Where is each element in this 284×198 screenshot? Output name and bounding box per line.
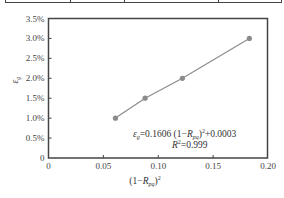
- y-tick-label: 0.5%: [26, 133, 45, 143]
- y-tick-label: 2.5%: [26, 53, 45, 63]
- data-point: [180, 76, 185, 81]
- y-tick-label: 1.5%: [26, 93, 45, 103]
- x-tick-label: 0.10: [150, 161, 166, 171]
- data-point: [247, 36, 252, 41]
- r-squared-label: R2=0.999: [171, 139, 208, 150]
- x-tick-label: 0: [46, 161, 51, 171]
- x-tick-label: 0.05: [96, 161, 112, 171]
- y-tick-label: 0: [40, 153, 45, 163]
- y-tick-label: 1.0%: [26, 113, 45, 123]
- x-axis-label: (1−Rpq)2: [129, 175, 160, 187]
- data-point: [113, 116, 118, 121]
- data-point: [142, 96, 147, 101]
- regression-equation: εg=0.1606 (1−Rpq)2+0.0003: [133, 128, 237, 140]
- data-points: [113, 36, 252, 121]
- x-tick-label: 0.15: [205, 161, 221, 171]
- x-axis-tick-labels: 00.050.100.150.20: [46, 161, 276, 171]
- y-tick-label: 2.0%: [26, 73, 45, 83]
- x-tick-label: 0.20: [260, 161, 276, 171]
- y-tick-label: 3.5%: [26, 14, 45, 24]
- y-axis-label: εg: [10, 77, 21, 84]
- y-tick-label: 3.0%: [26, 33, 45, 43]
- y-axis-tick-labels: 00.5%1.0%1.5%2.0%2.5%3.0%3.5%: [26, 14, 45, 164]
- chart: 00.5%1.0%1.5%2.0%2.5%3.0%3.5% 00.050.100…: [0, 0, 284, 198]
